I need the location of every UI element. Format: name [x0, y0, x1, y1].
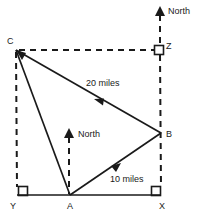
measure-label-ab: 10 miles	[110, 174, 144, 184]
vertex-label-X: X	[159, 201, 165, 211]
measure-label-cb: 20 miles	[86, 78, 120, 88]
right-angle-marks	[19, 46, 164, 196]
north-labels: North North	[78, 6, 190, 139]
segment-C-B	[16, 50, 161, 133]
right-angle-mark-z-icon	[155, 46, 164, 55]
geometry-canvas: C Z B Y A X 20 miles 10 miles North Nort…	[0, 0, 206, 220]
north-arrowhead-middle-icon	[64, 128, 74, 138]
vertex-label-Z: Z	[166, 41, 172, 51]
north-label-middle: North	[78, 129, 100, 139]
vertex-labels: C Z B Y A X	[7, 36, 172, 211]
north-label-top: North	[168, 6, 190, 16]
vertex-label-A: A	[67, 201, 73, 211]
vertex-label-C: C	[7, 36, 14, 46]
segment-A-B	[70, 133, 161, 195]
segment-C-A	[16, 50, 70, 195]
arrowhead-toward-c-icon	[94, 99, 104, 106]
bearing-diagram: C Z B Y A X 20 miles 10 miles North Nort…	[0, 0, 206, 220]
north-arrowheads	[64, 6, 165, 138]
dashed-line-C-Y	[16, 52, 17, 187]
dashed-construction-lines	[16, 15, 161, 194]
vertex-label-B: B	[166, 129, 172, 139]
vertex-label-Y: Y	[10, 201, 16, 211]
dashed-line-Z-X	[160, 55, 161, 187]
north-arrowhead-top-icon	[155, 6, 165, 16]
